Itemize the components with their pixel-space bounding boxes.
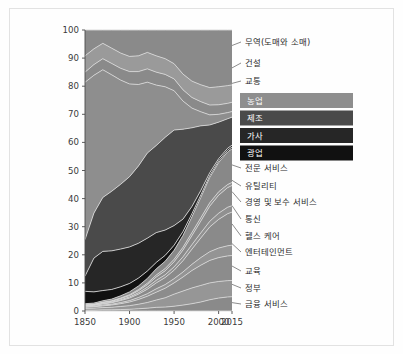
annotation-label: 유틸리티 bbox=[245, 181, 277, 191]
y-tick-label: 30 bbox=[68, 222, 79, 232]
y-tick-label: 0 bbox=[74, 306, 79, 316]
annotation-label: 교통 bbox=[245, 76, 261, 86]
annotation-label: 정부 bbox=[245, 283, 261, 293]
x-tick-label: 1850 bbox=[74, 317, 96, 327]
legend-label: 가사 bbox=[247, 131, 263, 141]
legend-label: 제조 bbox=[247, 113, 263, 123]
leader-line bbox=[232, 192, 241, 202]
annotation-label: 엔터테인먼트 bbox=[245, 247, 293, 257]
screenshot-root: 0102030405060708090100 18501900195020002… bbox=[0, 0, 403, 354]
leader-line bbox=[232, 81, 241, 83]
y-axis: 0102030405060708090100 bbox=[63, 25, 85, 316]
annotation-label: 무역(도매와 소매) bbox=[245, 37, 310, 47]
annotation-label: 전문 서비스 bbox=[245, 163, 288, 173]
y-tick-label: 40 bbox=[68, 194, 79, 204]
annotation-label: 경영 및 보수 서비스 bbox=[245, 197, 317, 207]
y-tick-label: 80 bbox=[68, 81, 79, 91]
annotation-label: 건설 bbox=[245, 58, 261, 68]
leader-line bbox=[232, 284, 241, 288]
y-tick-label: 70 bbox=[68, 109, 79, 119]
leader-lines-group bbox=[232, 42, 241, 304]
leader-line bbox=[232, 63, 241, 68]
y-tick-label: 100 bbox=[63, 25, 79, 35]
leader-line bbox=[232, 303, 241, 304]
leader-line bbox=[232, 165, 241, 168]
annotation-label: 헬스 케어 bbox=[245, 231, 280, 241]
stacked-area-chart: 0102030405060708090100 18501900195020002… bbox=[0, 0, 403, 354]
y-tick-label: 60 bbox=[68, 137, 79, 147]
leader-line bbox=[232, 266, 241, 271]
legend-label: 광업 bbox=[247, 148, 263, 158]
legend-label: 농업 bbox=[247, 96, 263, 106]
annotation-label: 통신 bbox=[245, 214, 261, 224]
y-tick-label: 50 bbox=[68, 166, 79, 176]
x-tick-label: 2015 bbox=[221, 317, 243, 327]
legend: 농업제조가사광업 bbox=[240, 93, 353, 161]
leader-line bbox=[232, 42, 241, 46]
annotation-label: 금융 서비스 bbox=[245, 299, 288, 309]
annotation-label: 교육 bbox=[245, 266, 261, 276]
y-tick-label: 20 bbox=[68, 250, 79, 260]
y-tick-label: 90 bbox=[68, 53, 79, 63]
x-axis: 18501900195020002015 bbox=[74, 311, 243, 327]
x-tick-label: 1950 bbox=[163, 317, 185, 327]
x-tick-label: 1900 bbox=[119, 317, 141, 327]
y-tick-label: 10 bbox=[68, 278, 79, 288]
leader-line bbox=[232, 180, 241, 186]
leader-line bbox=[232, 206, 241, 219]
leader-line bbox=[232, 244, 241, 252]
annotation-labels-group: 무역(도매와 소매)건설교통전문 서비스유틸리티경영 및 보수 서비스통신헬스 … bbox=[245, 37, 317, 309]
leader-line bbox=[232, 224, 241, 236]
